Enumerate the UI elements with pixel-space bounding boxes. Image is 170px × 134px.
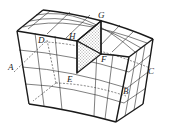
section-plane xyxy=(77,21,101,73)
label-f: F xyxy=(100,54,107,64)
label-b: B xyxy=(123,86,129,96)
front-bottom-edge xyxy=(29,104,116,122)
label-c: C xyxy=(148,66,155,76)
right-top-edge xyxy=(129,39,153,57)
label-e: E xyxy=(66,74,73,84)
right-bottom-edge xyxy=(116,104,143,122)
front-face-grid xyxy=(19,33,129,119)
curved-block-diagram: G H D A F C E B xyxy=(0,0,170,134)
label-d: D xyxy=(37,35,45,45)
left-top-edge xyxy=(17,10,43,31)
label-a: A xyxy=(7,62,14,72)
label-h: H xyxy=(68,31,76,41)
label-g: G xyxy=(98,10,105,20)
